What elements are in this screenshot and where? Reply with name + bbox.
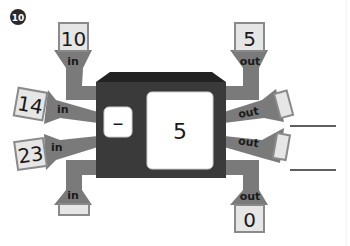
input-label: in xyxy=(57,103,69,116)
input-label: in xyxy=(67,189,79,202)
output-label: out xyxy=(240,55,261,68)
input-label: in xyxy=(67,55,79,68)
output-top-right: 5 out xyxy=(235,23,264,68)
function-machine: – 5 xyxy=(96,72,226,178)
operand-value: 5 xyxy=(173,119,187,144)
input-label: in xyxy=(51,141,63,154)
problem-number: 10 xyxy=(12,13,25,23)
input-left-upper: 14 in xyxy=(14,88,69,121)
input-value: 10 xyxy=(61,27,86,51)
output-label: out xyxy=(240,190,261,203)
function-machine-diagram: 10 – 5 10 in 14 xyxy=(0,0,350,246)
operation-sign: – xyxy=(113,110,124,135)
input-box-empty[interactable] xyxy=(59,204,89,215)
output-value: 0 xyxy=(243,208,256,232)
input-value: 23 xyxy=(16,141,45,168)
output-value: 5 xyxy=(243,27,256,51)
output-bottom-right: out 0 xyxy=(235,190,264,232)
input-value: 14 xyxy=(16,91,45,119)
input-left-lower: 23 in xyxy=(14,138,62,170)
problem-number-badge: 10 xyxy=(10,9,26,25)
machine-top-bevel xyxy=(96,72,226,82)
